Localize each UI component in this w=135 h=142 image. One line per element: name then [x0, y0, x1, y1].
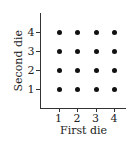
data-point: [112, 30, 117, 35]
data-point: [112, 87, 117, 92]
y-tick-label: 3: [27, 46, 35, 57]
data-point: [57, 30, 62, 35]
x-tick-label: 2: [72, 113, 82, 124]
data-point: [57, 87, 62, 92]
x-tick-label: 4: [109, 113, 119, 124]
data-point: [112, 68, 117, 73]
data-point: [94, 87, 99, 92]
y-tick: [36, 32, 40, 33]
data-point: [75, 49, 80, 54]
y-tick: [36, 51, 40, 52]
y-tick: [36, 89, 40, 90]
x-tick-label: 1: [54, 113, 64, 124]
data-point: [112, 49, 117, 54]
data-point: [57, 68, 62, 73]
data-point: [57, 49, 62, 54]
x-tick-label: 3: [91, 113, 101, 124]
x-axis-label: First die: [60, 124, 107, 137]
y-tick: [36, 70, 40, 71]
y-axis: [40, 13, 41, 109]
y-tick-label: 1: [27, 84, 35, 95]
data-point: [94, 30, 99, 35]
y-tick-label: 4: [27, 27, 35, 38]
data-point: [94, 68, 99, 73]
data-point: [75, 87, 80, 92]
data-point: [94, 49, 99, 54]
y-tick-label: 2: [27, 65, 35, 76]
data-point: [75, 68, 80, 73]
y-axis-label: Second die: [12, 32, 25, 92]
data-point: [75, 30, 80, 35]
